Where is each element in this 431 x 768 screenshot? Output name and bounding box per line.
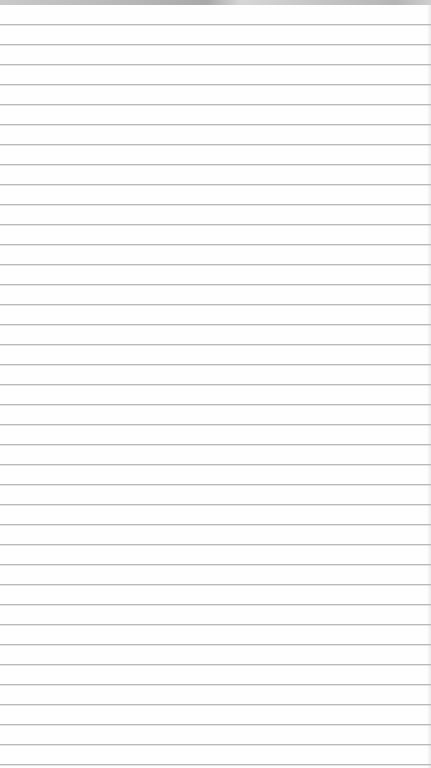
ruled-line — [0, 44, 431, 45]
ruled-line — [0, 644, 431, 645]
paper-right-edge-shadow — [427, 5, 431, 768]
ruled-line — [0, 684, 431, 685]
ruled-line — [0, 764, 431, 765]
ruled-line — [0, 104, 431, 105]
ruled-line — [0, 164, 431, 165]
ruled-line — [0, 464, 431, 465]
ruled-line — [0, 404, 431, 405]
ruled-line — [0, 304, 431, 305]
ruled-line — [0, 384, 431, 385]
ruled-line — [0, 184, 431, 185]
ruled-line — [0, 364, 431, 365]
ruled-line — [0, 744, 431, 745]
ruled-line — [0, 64, 431, 65]
ruled-line — [0, 604, 431, 605]
ruled-line — [0, 444, 431, 445]
ruled-line — [0, 244, 431, 245]
ruled-line — [0, 624, 431, 625]
ruled-line — [0, 504, 431, 505]
ruled-line — [0, 324, 431, 325]
ruled-line — [0, 204, 431, 205]
ruled-line — [0, 144, 431, 145]
ruled-line — [0, 124, 431, 125]
ruled-line — [0, 344, 431, 345]
ruled-line — [0, 84, 431, 85]
ruled-notepad-page[interactable] — [0, 0, 431, 768]
ruled-line — [0, 284, 431, 285]
ruled-line — [0, 564, 431, 565]
ruled-line — [0, 524, 431, 525]
ruled-line — [0, 224, 431, 225]
ruled-line — [0, 424, 431, 425]
ruled-line — [0, 584, 431, 585]
ruled-line — [0, 24, 431, 25]
ruled-line — [0, 484, 431, 485]
ruled-line — [0, 544, 431, 545]
paper-top-edge — [0, 0, 431, 5]
ruled-line — [0, 264, 431, 265]
ruled-line — [0, 724, 431, 725]
ruled-line — [0, 704, 431, 705]
ruled-line — [0, 664, 431, 665]
